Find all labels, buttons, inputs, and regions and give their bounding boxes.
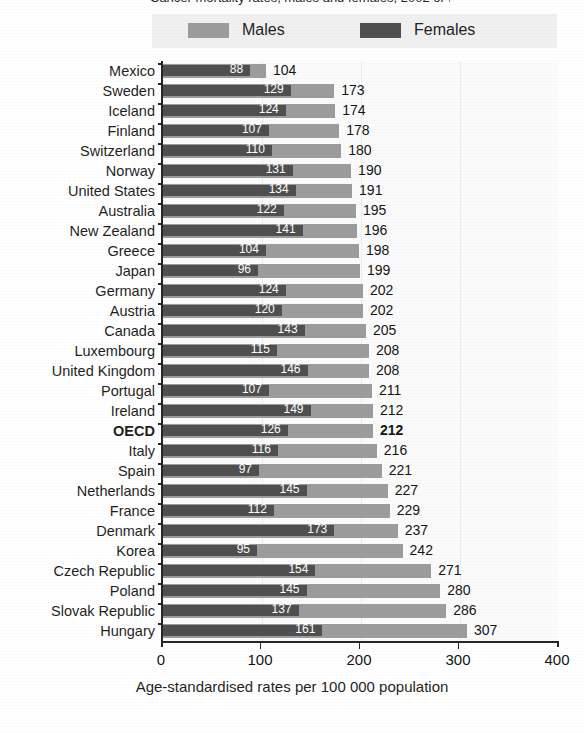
value-label-females: 126 xyxy=(163,422,281,437)
x-axis-tick-label: 400 xyxy=(544,651,569,668)
category-label: Canada xyxy=(0,321,155,341)
legend-entry-females: Females xyxy=(360,21,475,39)
legend-label-females: Females xyxy=(414,21,475,39)
category-label: Denmark xyxy=(0,521,155,541)
bar-row: 116216 xyxy=(163,441,559,461)
value-label-females: 146 xyxy=(163,362,301,377)
bar-row: 120202 xyxy=(163,301,559,321)
value-label-females: 154 xyxy=(163,562,308,577)
value-label-males: 174 xyxy=(342,102,365,119)
x-axis-title: Age-standardised rates per 100 000 popul… xyxy=(0,678,584,695)
bar-row: 88104 xyxy=(163,61,559,81)
bar-row: 145280 xyxy=(163,581,559,601)
bar-row: 107211 xyxy=(163,381,559,401)
value-label-females: 107 xyxy=(163,382,262,397)
value-label-males: 208 xyxy=(376,342,399,359)
value-label-males: 242 xyxy=(410,542,433,559)
legend-label-males: Males xyxy=(242,21,285,39)
category-axis-labels: MexicoSwedenIcelandFinlandSwitzerlandNor… xyxy=(0,61,155,641)
category-label: Norway xyxy=(0,161,155,181)
value-label-females: 134 xyxy=(163,182,289,197)
value-label-males: 205 xyxy=(373,322,396,339)
value-label-males: 198 xyxy=(366,242,389,259)
category-label: Japan xyxy=(0,261,155,281)
value-label-males: 237 xyxy=(405,522,428,539)
category-label: France xyxy=(0,501,155,521)
value-label-males: 212 xyxy=(380,402,403,419)
chart-legend: Males Females xyxy=(152,14,557,48)
value-label-males: 104 xyxy=(273,62,296,79)
bar-row: 134191 xyxy=(163,181,559,201)
bar-row: 124202 xyxy=(163,281,559,301)
x-axis-tick-label: 200 xyxy=(346,651,371,668)
bar-row: 104198 xyxy=(163,241,559,261)
bar-row: 161307 xyxy=(163,621,559,641)
category-label: Slovak Republic xyxy=(0,601,155,621)
bar-row: 95242 xyxy=(163,541,559,561)
value-label-females: 112 xyxy=(163,502,267,517)
x-axis-left-cap xyxy=(161,641,163,647)
value-label-females: 110 xyxy=(163,142,265,157)
category-label: Italy xyxy=(0,441,155,461)
value-label-females: 115 xyxy=(163,342,270,357)
value-label-females: 173 xyxy=(163,522,327,537)
category-label: Mexico xyxy=(0,61,155,81)
value-label-males: 180 xyxy=(348,142,371,159)
value-label-females: 88 xyxy=(163,62,243,77)
value-label-females: 137 xyxy=(163,602,292,617)
bar-row: 137286 xyxy=(163,601,559,621)
bar-row: 115208 xyxy=(163,341,559,361)
bar-row: 112229 xyxy=(163,501,559,521)
category-label: Greece xyxy=(0,241,155,261)
value-label-males: 191 xyxy=(359,182,382,199)
bar-row: 110180 xyxy=(163,141,559,161)
x-axis-tick xyxy=(359,643,360,649)
category-label: Portugal xyxy=(0,381,155,401)
value-label-males: 202 xyxy=(370,282,393,299)
value-label-males: 216 xyxy=(384,442,407,459)
value-label-females: 124 xyxy=(163,282,279,297)
value-label-males: 208 xyxy=(376,362,399,379)
chart-title-remnant: Cancer mortality rates, males and female… xyxy=(150,0,450,7)
category-label: Spain xyxy=(0,461,155,481)
bar-row: 129173 xyxy=(163,81,559,101)
value-label-females: 96 xyxy=(163,262,251,277)
value-label-males: 196 xyxy=(364,222,387,239)
legend-entry-males: Males xyxy=(188,21,285,39)
bar-row: 126212 xyxy=(163,421,559,441)
category-label: Switzerland xyxy=(0,141,155,161)
category-label: United Kingdom xyxy=(0,361,155,381)
value-label-females: 129 xyxy=(163,82,284,97)
plot-area: 8810412917312417410717811018013119013419… xyxy=(161,61,559,641)
value-label-males: 212 xyxy=(380,422,403,439)
value-label-males: 271 xyxy=(438,562,461,579)
value-label-males: 227 xyxy=(395,482,418,499)
value-label-males: 307 xyxy=(474,622,497,639)
value-label-males: 173 xyxy=(341,82,364,99)
category-label: Iceland xyxy=(0,101,155,121)
value-label-females: 122 xyxy=(163,202,277,217)
category-label: Czech Republic xyxy=(0,561,155,581)
value-label-females: 145 xyxy=(163,582,300,597)
bar-row: 173237 xyxy=(163,521,559,541)
category-label: Sweden xyxy=(0,81,155,101)
value-label-males: 221 xyxy=(389,462,412,479)
value-label-females: 104 xyxy=(163,242,259,257)
value-label-females: 97 xyxy=(163,462,252,477)
value-label-males: 195 xyxy=(363,202,386,219)
value-label-females: 141 xyxy=(163,222,296,237)
category-label: Luxembourg xyxy=(0,341,155,361)
chart-root: Cancer mortality rates, males and female… xyxy=(0,0,584,733)
category-label: Austria xyxy=(0,301,155,321)
bar-row: 141196 xyxy=(163,221,559,241)
value-label-females: 149 xyxy=(163,402,304,417)
legend-swatch-females-icon xyxy=(360,23,401,38)
value-label-females: 124 xyxy=(163,102,279,117)
x-axis-right-cap xyxy=(557,641,559,647)
category-label: Finland xyxy=(0,121,155,141)
category-label: Netherlands xyxy=(0,481,155,501)
bar-row: 146208 xyxy=(163,361,559,381)
value-label-males: 190 xyxy=(358,162,381,179)
category-label: Hungary xyxy=(0,621,155,641)
value-label-females: 145 xyxy=(163,482,300,497)
